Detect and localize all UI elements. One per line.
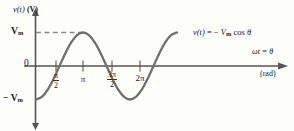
x-tick-text: π bbox=[81, 74, 86, 84]
x-axis-arrowhead bbox=[278, 62, 288, 69]
y-tick-vm-subscript: m bbox=[18, 29, 23, 36]
x-tick-label-pi-over-2: π 2 bbox=[53, 72, 59, 91]
x-tick-label-pi: π bbox=[81, 75, 86, 84]
y-tick-label-neg-vm: − Vm bbox=[3, 94, 23, 104]
y-tick-label-vm: Vm bbox=[11, 27, 23, 37]
equation-function: cos bbox=[231, 27, 247, 37]
x-tick-label-3pi-over-2: 3π 2 bbox=[107, 71, 117, 90]
x-tick-denominator: 2 bbox=[53, 81, 59, 90]
x-tick-numerator: π bbox=[53, 72, 59, 81]
waveform-plot bbox=[0, 0, 294, 131]
x-tick-text: 2π bbox=[135, 73, 144, 83]
y-axis-label-symbol: v(t) bbox=[13, 4, 25, 14]
y-tick-neg-vm-prefix: − bbox=[3, 93, 11, 103]
equation-argument: θ bbox=[247, 27, 251, 37]
figure-container: v(t) (V) Vm 0 − Vm π 2 π 3π 2 2π v(t) = … bbox=[0, 0, 294, 131]
y-axis-arrowhead-down bbox=[32, 123, 39, 130]
equation-relation: = − bbox=[205, 27, 221, 37]
x-tick-numerator: 3π bbox=[107, 71, 117, 80]
y-axis-label-unit: (V) bbox=[27, 5, 38, 14]
x-tick-denominator: 2 bbox=[107, 80, 117, 89]
x-axis-variable-label: ωt = θ bbox=[252, 48, 273, 56]
y-tick-zero-text: 0 bbox=[24, 58, 29, 68]
x-axis-unit-label: (rad) bbox=[260, 70, 276, 78]
y-tick-neg-vm-symbol: V bbox=[11, 93, 18, 103]
equation-annotation: v(t) = − Vm cos θ bbox=[193, 28, 251, 38]
y-tick-neg-vm-subscript: m bbox=[18, 96, 23, 103]
y-tick-vm-symbol: V bbox=[11, 26, 18, 36]
equation-lhs: v(t) bbox=[193, 27, 205, 37]
y-axis-label: v(t) (V) bbox=[13, 5, 38, 14]
y-tick-label-zero: 0 bbox=[24, 59, 29, 69]
x-tick-label-2pi: 2π bbox=[135, 74, 144, 83]
